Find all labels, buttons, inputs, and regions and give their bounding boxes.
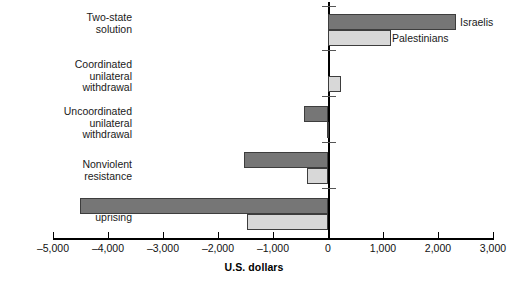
bar-israelis bbox=[304, 106, 328, 122]
legend-label-israelis: Israelis bbox=[460, 16, 493, 28]
bar-israelis bbox=[244, 152, 328, 168]
x-axis-title: U.S. dollars bbox=[0, 261, 508, 273]
x-tick-label: 2,000 bbox=[425, 242, 451, 254]
x-tick-label: –4,000 bbox=[92, 242, 124, 254]
x-tick bbox=[273, 232, 274, 239]
bar-israelis bbox=[80, 198, 328, 214]
axis-tick-group-1 bbox=[322, 50, 336, 51]
x-tick-label: –1,000 bbox=[257, 242, 289, 254]
axis-tick-group-3 bbox=[322, 142, 336, 143]
x-tick-label: –5,000 bbox=[37, 242, 69, 254]
bar-palestinians bbox=[247, 214, 328, 230]
legend-label-palestinians: Palestinians bbox=[392, 32, 449, 44]
x-tick bbox=[218, 232, 219, 239]
bar-chart: Two-state solution Coordinated unilatera… bbox=[0, 0, 508, 282]
x-tick-label: 0 bbox=[325, 242, 331, 254]
bar-palestinians bbox=[328, 76, 341, 92]
x-tick bbox=[53, 232, 54, 239]
plot-area: Israelis Palestinians bbox=[53, 4, 493, 238]
x-tick bbox=[383, 232, 384, 239]
x-tick-label: –2,000 bbox=[202, 242, 234, 254]
x-tick-label: –3,000 bbox=[147, 242, 179, 254]
x-tick bbox=[438, 232, 439, 239]
x-tick bbox=[493, 232, 494, 239]
axis-tick-group-4 bbox=[322, 188, 336, 189]
axis-tick-group-0 bbox=[322, 6, 336, 7]
x-tick bbox=[163, 232, 164, 239]
bar-palestinians bbox=[327, 122, 329, 138]
x-tick bbox=[328, 232, 329, 239]
x-tick-label: 1,000 bbox=[370, 242, 396, 254]
bar-palestinians bbox=[307, 168, 328, 184]
bar-israelis bbox=[328, 14, 456, 30]
bar-palestinians bbox=[328, 30, 391, 46]
x-tick bbox=[108, 232, 109, 239]
x-tick-label: 3,000 bbox=[480, 242, 506, 254]
axis-tick-group-2 bbox=[322, 96, 336, 97]
